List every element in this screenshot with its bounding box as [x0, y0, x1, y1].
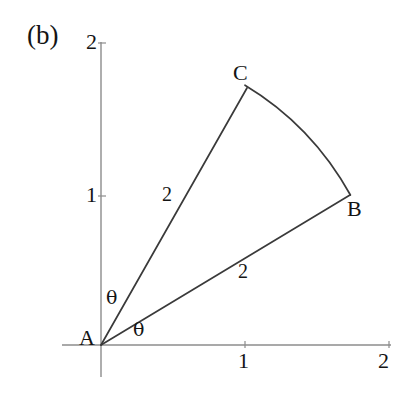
vertex-label-b: B [347, 198, 362, 220]
x-axis-tick-label-1: 1 [238, 350, 249, 372]
y-axis-tick-label-1: 1 [86, 184, 97, 206]
angle-theta-lower-label: θ [133, 320, 144, 339]
panel-label: (b) [27, 22, 58, 49]
vertex-label-a: A [79, 327, 95, 349]
y-axis-tick-label-2: 2 [86, 31, 97, 53]
arc-CB [245, 85, 350, 195]
segment-ac-length-label: 2 [162, 184, 172, 204]
geometry-figure: (b) 2 1 1 2 A B C 2 2 θ θ [0, 0, 415, 398]
segment-ab-length-label: 2 [238, 261, 248, 281]
x-axis-tick-label-2: 2 [378, 350, 389, 372]
angle-theta-upper-label: θ [106, 288, 117, 307]
vertex-label-c: C [233, 62, 248, 84]
segment-AC [101, 88, 247, 345]
